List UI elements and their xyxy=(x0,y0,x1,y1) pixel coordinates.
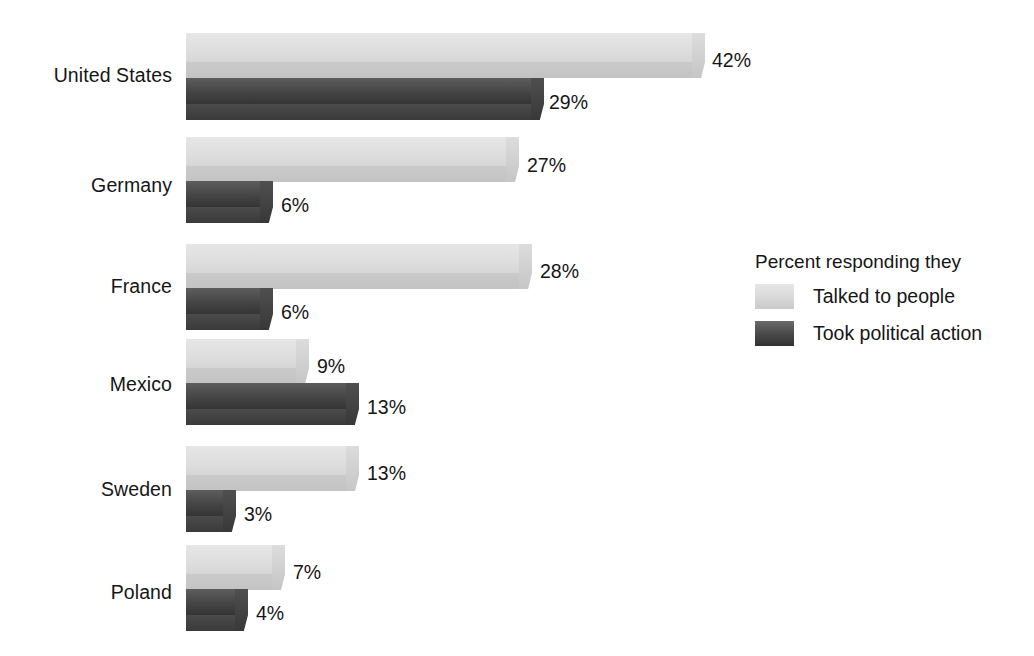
bar-top-face xyxy=(186,244,519,273)
bar-top-face xyxy=(186,288,260,314)
bar-end-bevel xyxy=(260,181,273,223)
bar-top-face xyxy=(186,545,272,574)
value-label-light-4: 13% xyxy=(367,464,406,484)
value-label-light-0: 42% xyxy=(712,51,751,71)
bar-front-face xyxy=(186,314,260,330)
bar-dark-1 xyxy=(186,181,273,223)
value-label-dark-2: 6% xyxy=(281,303,309,323)
category-label-4: Sweden xyxy=(101,480,172,500)
bar-end-bevel xyxy=(296,339,309,384)
bar-light-1 xyxy=(186,137,519,182)
bar-dark-2 xyxy=(186,288,273,330)
category-label-1: Germany xyxy=(91,176,172,196)
category-label-5: Poland xyxy=(111,583,172,603)
legend-title: Percent responding they xyxy=(755,252,1025,271)
value-label-light-3: 9% xyxy=(317,357,345,377)
bar-light-5 xyxy=(186,545,285,590)
bar-dark-5 xyxy=(186,589,248,631)
light-swatch-icon xyxy=(755,284,794,309)
bar-top-face xyxy=(186,137,506,166)
value-label-dark-1: 6% xyxy=(281,196,309,216)
bar-top-face xyxy=(186,78,531,104)
bar-light-4 xyxy=(186,446,359,491)
value-label-dark-4: 3% xyxy=(244,505,272,525)
value-label-light-1: 27% xyxy=(527,156,566,176)
legend-label: Took political action xyxy=(813,324,982,344)
bar-top-face xyxy=(186,339,296,368)
bar-front-face xyxy=(186,207,260,223)
bar-top-face xyxy=(186,589,235,615)
bar-front-face xyxy=(186,166,506,182)
legend-label: Talked to people xyxy=(813,287,955,307)
dark-swatch-icon xyxy=(755,321,794,346)
bar-end-bevel xyxy=(272,545,285,590)
bar-top-face xyxy=(186,446,346,475)
value-label-dark-5: 4% xyxy=(256,604,284,624)
category-label-0: United States xyxy=(54,66,172,86)
bar-front-face xyxy=(186,615,235,631)
bar-light-0 xyxy=(186,33,705,78)
legend-item-talked-to-people[interactable]: Talked to people xyxy=(755,284,1025,309)
bar-light-3 xyxy=(186,339,309,384)
bar-chart: United States 42% 29% Germany 27% 6% Fra… xyxy=(0,0,1034,656)
value-label-light-2: 28% xyxy=(540,262,579,282)
bar-front-face xyxy=(186,409,346,425)
bar-dark-0 xyxy=(186,78,544,120)
bar-end-bevel xyxy=(235,589,248,631)
bar-front-face xyxy=(186,273,519,289)
bar-light-2 xyxy=(186,244,532,289)
bar-front-face xyxy=(186,104,531,120)
bar-end-bevel xyxy=(531,78,544,120)
bar-end-bevel xyxy=(260,288,273,330)
bar-front-face xyxy=(186,574,272,590)
legend-item-took-political-action[interactable]: Took political action xyxy=(755,321,1025,346)
bar-top-face xyxy=(186,181,260,207)
category-label-3: Mexico xyxy=(110,375,172,395)
category-label-2: France xyxy=(111,277,172,297)
bar-end-bevel xyxy=(519,244,532,289)
bar-front-face xyxy=(186,62,692,78)
bar-end-bevel xyxy=(692,33,705,78)
bar-top-face xyxy=(186,490,223,516)
bar-dark-4 xyxy=(186,490,236,532)
bar-top-face xyxy=(186,383,346,409)
bar-top-face xyxy=(186,33,692,62)
bar-dark-3 xyxy=(186,383,359,425)
bar-end-bevel xyxy=(223,490,236,532)
bar-front-face xyxy=(186,368,296,384)
bar-end-bevel xyxy=(346,446,359,491)
bar-front-face xyxy=(186,475,346,491)
bar-end-bevel xyxy=(346,383,359,425)
bar-front-face xyxy=(186,516,223,532)
value-label-light-5: 7% xyxy=(293,563,321,583)
value-label-dark-3: 13% xyxy=(367,398,406,418)
value-label-dark-0: 29% xyxy=(549,93,588,113)
chart-legend: Percent responding they Talked to people… xyxy=(755,252,1025,358)
bar-end-bevel xyxy=(506,137,519,182)
